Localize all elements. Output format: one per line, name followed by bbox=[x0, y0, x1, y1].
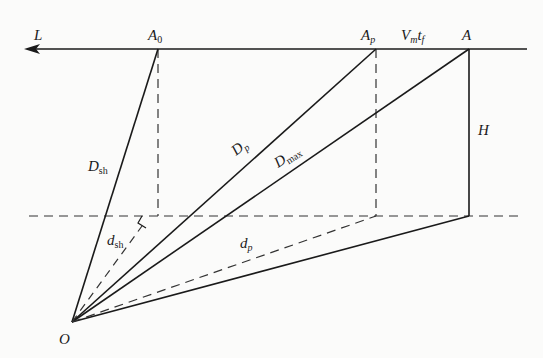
label-A: A bbox=[461, 27, 472, 43]
dashed-line-dp bbox=[72, 216, 376, 322]
label-Dsh: Dsh bbox=[87, 158, 108, 176]
label-L: L bbox=[33, 27, 42, 43]
geometry-diagram: L A0 Ap Vmtf A H Dsh dsh Dp Dmax dp O bbox=[0, 0, 543, 358]
label-Vm-tf: Vmtf bbox=[401, 27, 426, 45]
label-Dmax: Dmax bbox=[270, 142, 304, 173]
label-Ap: Ap bbox=[360, 27, 375, 45]
right-angle-marker bbox=[138, 216, 146, 228]
diagram-svg: L A0 Ap Vmtf A H Dsh dsh Dp Dmax dp O bbox=[0, 0, 543, 358]
label-A0: A0 bbox=[147, 27, 162, 45]
line-Dsh bbox=[72, 49, 158, 322]
label-O: O bbox=[59, 331, 70, 347]
line-Dmax bbox=[72, 49, 469, 322]
label-H: H bbox=[477, 122, 490, 138]
label-dp: dp bbox=[240, 235, 253, 253]
label-dsh: dsh bbox=[107, 232, 123, 250]
label-Dp: Dp bbox=[227, 136, 251, 161]
